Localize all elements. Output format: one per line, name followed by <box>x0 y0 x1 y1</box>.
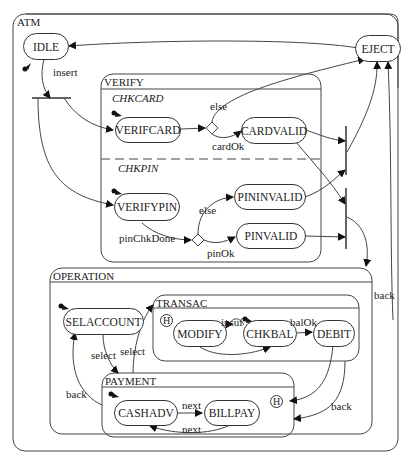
transition-back-pay-label: back <box>331 401 352 412</box>
transition-select1-label: select <box>91 350 116 361</box>
chkcard-region-label: CHKCARD <box>112 93 163 104</box>
transac-label: TRANSAC <box>156 298 207 309</box>
state-billpay[interactable]: BILLPAY <box>204 400 260 426</box>
verify-label: VERIFY <box>104 77 144 88</box>
transition-pinok-label: pinOk <box>207 248 235 259</box>
state-selaccount[interactable]: SELACCOUNT <box>63 308 144 335</box>
transition-cardok-label: cardOk <box>212 141 244 152</box>
chkpin-region-label: CHKPIN <box>118 163 158 174</box>
transition-else-card-label: else <box>210 101 227 112</box>
payment-label: PAYMENT <box>105 376 156 387</box>
transition-balok-label: balOk <box>290 317 317 328</box>
transition-pinchkdone-label: pinChkDone <box>119 233 175 244</box>
transition-else-pin-label: else <box>199 205 216 216</box>
operation-label: OPERATION <box>53 271 114 282</box>
transition-insert-label: insert <box>53 67 77 78</box>
atm-label: ATM <box>17 17 40 28</box>
state-modify[interactable]: MODIFY <box>173 320 227 347</box>
state-pininvalid[interactable]: PININVALID <box>234 184 306 210</box>
state-chkbal[interactable]: CHKBAL <box>243 320 297 347</box>
state-verifcard[interactable]: VERIFCARD <box>115 117 181 143</box>
state-debit[interactable]: DEBIT <box>313 320 355 347</box>
transac-history-icon: H <box>160 314 173 327</box>
state-eject[interactable]: EJECT <box>355 35 401 62</box>
state-pinvalid[interactable]: PINVALID <box>236 223 306 249</box>
state-verifypin[interactable]: VERIFYPIN <box>114 193 180 221</box>
transition-next1-label: next <box>182 400 201 411</box>
transition-back-op-label: back <box>374 290 395 301</box>
transition-insuf-label: insuf <box>221 317 243 328</box>
state-idle[interactable]: IDLE <box>23 33 69 60</box>
payment-history-icon: H <box>270 395 283 408</box>
transition-next2-label: next <box>182 424 201 435</box>
state-cashadv[interactable]: CASHADV <box>114 400 178 426</box>
transition-back-sel-label: back <box>66 389 87 400</box>
state-cardvalid[interactable]: CARDVALID <box>241 117 307 144</box>
transition-select2-label: select <box>120 346 145 357</box>
